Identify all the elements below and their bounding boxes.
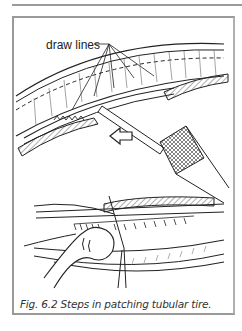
draw-lines-label: draw lines	[46, 38, 100, 52]
top-rule	[12, 4, 242, 6]
figure-caption: Fig. 6.2 Steps in patching tubular tire.	[20, 298, 211, 310]
tire-patching-illustration	[14, 18, 233, 313]
figure-frame: draw lines Fig. 6.2 Steps in patching tu…	[12, 16, 235, 315]
